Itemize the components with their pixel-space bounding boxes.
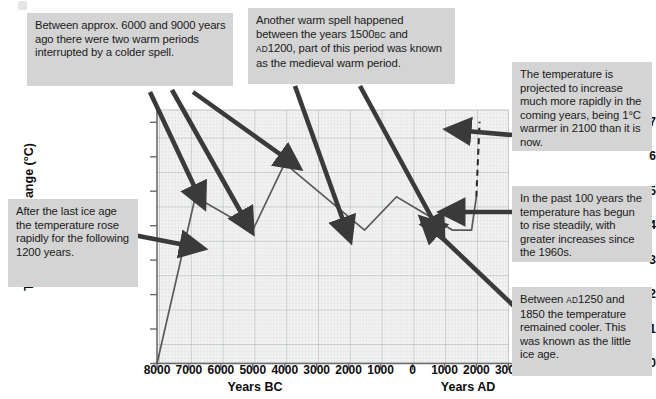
callout-projection: The temperature is projected to increase… [512, 62, 652, 151]
callout-past-100-years: In the past 100 years the temperature ha… [512, 186, 652, 262]
x-tick-1000bc: 1000 [367, 363, 394, 377]
x-axis-label-ad: Years AD [441, 380, 495, 394]
x-tick-0: 0 [409, 363, 416, 377]
callout-warm-periods: Between approx. 6000 and 9000 years ago … [27, 13, 233, 86]
callout-little-ice-age: Between AD1250 and 1850 the temperature … [512, 287, 652, 376]
y-tick-6: 6 [508, 149, 656, 163]
callout-warm-spell-bc: BC [374, 31, 386, 40]
x-tick-4000bc: 4000 [271, 363, 298, 377]
x-tick-2000ad: 2000 [463, 363, 490, 377]
callout-after-last-ice-age: After the last ice age the temperature r… [8, 199, 138, 287]
x-tick-6000bc: 6000 [208, 363, 235, 377]
x-tick-5000bc: 5000 [239, 363, 266, 377]
page-corner-mark [18, 1, 27, 10]
plot-area [157, 110, 509, 363]
x-axis-label-bc: Years BC [228, 380, 283, 394]
x-tick-7000bc: 7000 [176, 363, 203, 377]
x-tick-8000bc: 8000 [144, 363, 171, 377]
callout-warm-spell-text-2: and [386, 28, 408, 40]
callout-warm-spell-text-3: 1200, part of this period was known as t… [256, 42, 442, 69]
callout-little-ice-text-1: Between [520, 293, 566, 305]
figure-root: Temperature change (°C) 8000 7000 6000 5… [0, 0, 656, 399]
x-tick-2000bc: 2000 [335, 363, 362, 377]
x-tick-1000ad: 1000 [431, 363, 458, 377]
callout-warm-spell-ad: AD [256, 45, 268, 54]
x-tick-3000bc: 3000 [303, 363, 330, 377]
callout-medieval-warm-spell: Another warm spell happened between the … [248, 8, 455, 84]
callout-little-ice-ad: AD [566, 296, 578, 305]
